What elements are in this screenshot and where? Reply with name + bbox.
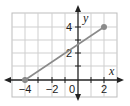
y-axis-up-arrow-icon <box>75 5 81 12</box>
x-tick-label-2: 2 <box>101 83 107 95</box>
endpoint-left <box>22 77 28 83</box>
x-axis-label: x <box>108 64 115 78</box>
y-tick-label-4: 4 <box>66 21 72 33</box>
x-tick-label-0: 0 <box>69 83 75 95</box>
coordinate-plane: −4 −2 0 2 2 4 y x <box>0 0 130 106</box>
y-axis-label: y <box>82 11 89 25</box>
endpoint-right <box>101 24 107 30</box>
x-tick-label-neg2: −2 <box>46 83 59 95</box>
x-axis-right-arrow-icon <box>117 77 124 83</box>
x-axis-left-arrow-icon <box>4 77 11 83</box>
x-tick-label-neg4: −4 <box>19 83 32 95</box>
